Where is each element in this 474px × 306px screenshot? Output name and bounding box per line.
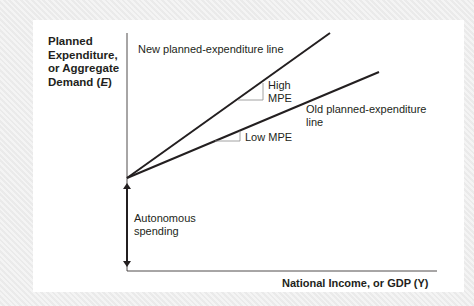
y-axis-variable: E — [100, 76, 108, 88]
high-mpe-label: High MPE — [268, 79, 292, 105]
autonomous-spending-line1: Autonomous — [134, 212, 196, 225]
high-mpe-slope-triangle — [238, 83, 263, 100]
x-axis-label: National Income, or GDP (Y) — [282, 277, 429, 290]
y-axis-label-line3: or Aggregate — [48, 62, 119, 76]
y-axis-label-line1: Planned — [48, 35, 119, 49]
old-line-label-line2: line — [306, 116, 426, 129]
high-mpe-label-line2: MPE — [268, 92, 292, 105]
low-mpe-label: Low MPE — [245, 131, 292, 144]
y-axis-label-suffix: ) — [108, 76, 112, 88]
y-axis-label-line2: Expenditure, — [48, 49, 119, 63]
y-axis-label: Planned Expenditure, or Aggregate Demand… — [48, 35, 119, 89]
y-axis-label-prefix: Demand ( — [48, 76, 100, 88]
autonomous-spending-label: Autonomous spending — [134, 212, 196, 238]
autonomous-spending-line2: spending — [134, 225, 196, 238]
old-line-label-line1: Old planned-expenditure — [306, 103, 426, 116]
y-axis-label-line4: Demand (E) — [48, 76, 119, 90]
new-line-label: New planned-expenditure line — [138, 43, 284, 56]
old-line-label: Old planned-expenditure line — [306, 103, 426, 129]
high-mpe-label-line1: High — [268, 79, 292, 92]
